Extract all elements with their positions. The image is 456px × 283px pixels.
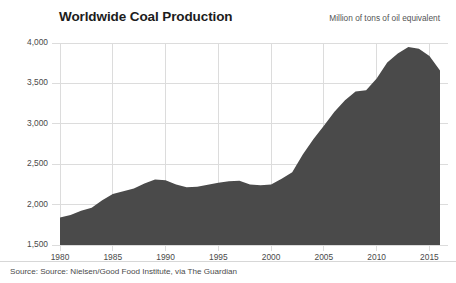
y-tick-label: 3,000 (2, 118, 48, 128)
area-series-coal-production (60, 47, 440, 245)
footer-divider (0, 261, 456, 262)
y-tick-label: 2,500 (2, 158, 48, 168)
plot-area (0, 0, 456, 283)
source-note: Source: Source: Nielsen/Good Food Instit… (10, 267, 237, 276)
chart-figure: Worldwide Coal Production Million of ton… (0, 0, 456, 283)
y-tick-label: 2,000 (2, 199, 48, 209)
y-tick-label: 1,500 (2, 239, 48, 249)
y-tick-label: 4,000 (2, 37, 48, 47)
plot-svg (0, 0, 456, 283)
y-tick-label: 3,500 (2, 77, 48, 87)
